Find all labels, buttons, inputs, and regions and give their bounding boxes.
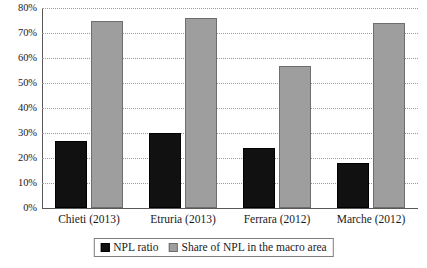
x-tick-label: Etruria (2013): [136, 210, 230, 230]
bar[interactable]: [279, 66, 311, 209]
plot-area: [42, 8, 418, 208]
chart-legend: NPL ratioShare of NPL in the macro area: [93, 238, 333, 257]
legend-label: NPL ratio: [113, 240, 158, 254]
y-tick-label: 80%: [18, 3, 37, 13]
bar-group: [42, 8, 136, 208]
y-tick-label: 60%: [18, 53, 37, 63]
bar-group: [324, 8, 418, 208]
bar[interactable]: [243, 148, 275, 208]
bar[interactable]: [149, 133, 181, 208]
y-tick-label: 40%: [18, 103, 37, 113]
bar-group: [230, 8, 324, 208]
y-tick-label: 10%: [18, 178, 37, 188]
bar[interactable]: [91, 21, 123, 209]
legend-label: Share of NPL in the macro area: [182, 240, 327, 254]
plot-wrapper: 0%10%20%30%40%50%60%70%80% Chieti (2013)…: [0, 0, 427, 232]
bar-chart: 0%10%20%30%40%50%60%70%80% Chieti (2013)…: [0, 0, 427, 268]
y-tick-label: 50%: [18, 78, 37, 88]
x-tick-label: Ferrara (2012): [230, 210, 324, 230]
bar[interactable]: [337, 163, 369, 208]
y-axis: 0%10%20%30%40%50%60%70%80%: [0, 8, 40, 208]
bar[interactable]: [185, 18, 217, 208]
x-tick-label: Marche (2012): [324, 210, 418, 230]
legend-swatch-icon: [169, 243, 178, 252]
y-tick-label: 30%: [18, 128, 37, 138]
bar[interactable]: [373, 23, 405, 208]
bar-groups: [42, 8, 418, 208]
x-tick-label: Chieti (2013): [42, 210, 136, 230]
legend-swatch-icon: [100, 243, 109, 252]
y-tick-label: 70%: [18, 28, 37, 38]
bar-group: [136, 8, 230, 208]
x-axis: Chieti (2013)Etruria (2013)Ferrara (2012…: [42, 210, 418, 230]
bar[interactable]: [55, 141, 87, 209]
axis-baseline: [42, 208, 418, 209]
y-tick-label: 20%: [18, 153, 37, 163]
y-tick-label: 0%: [23, 203, 37, 213]
legend-entry[interactable]: NPL ratio: [100, 240, 158, 254]
legend-entry[interactable]: Share of NPL in the macro area: [169, 240, 327, 254]
